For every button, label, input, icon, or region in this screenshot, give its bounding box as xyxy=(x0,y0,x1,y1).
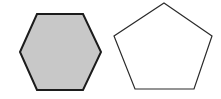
figure-canvas xyxy=(0,0,221,99)
hexagon-shape xyxy=(20,14,101,90)
polygon-figure-svg xyxy=(0,0,221,99)
